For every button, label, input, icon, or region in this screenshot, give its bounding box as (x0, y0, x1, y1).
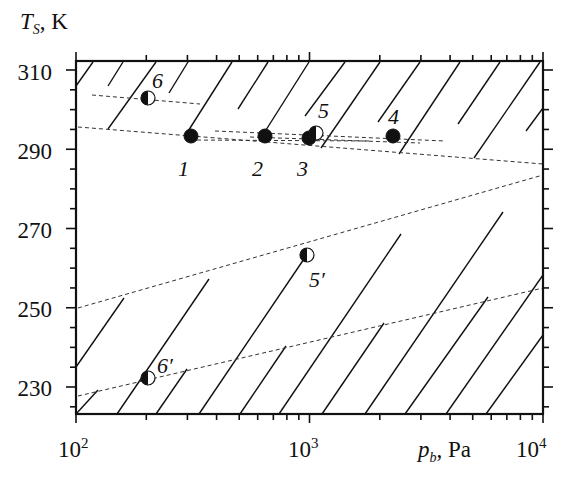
data-point-2 (258, 129, 272, 143)
x-axis-title: pb, Pa (416, 437, 471, 465)
y-tick-250: 250 (18, 297, 53, 322)
x-tick-labels: 102 103 104 (58, 435, 547, 462)
point-label: 2 (252, 156, 263, 181)
hatch-line (76, 298, 124, 367)
y-tick-230: 230 (18, 376, 53, 401)
hatch-line (399, 62, 460, 154)
data-point-6 (141, 91, 155, 105)
point-label: 4 (388, 104, 399, 129)
y-tick-270: 270 (18, 218, 53, 243)
x-tick-10000: 104 (516, 435, 547, 462)
plot-frame (76, 61, 543, 414)
data-point-6′ (141, 371, 155, 385)
axis-ticks (66, 52, 553, 423)
hatch-line (185, 62, 232, 136)
point-label: 5 (318, 98, 329, 123)
y-axis-title: TS, K (20, 9, 68, 37)
hatch-line (321, 62, 380, 148)
data-point-1 (184, 129, 198, 143)
point-label: 5′ (309, 267, 326, 292)
point-label: 6 (152, 68, 163, 93)
point-label: 1 (178, 156, 189, 181)
x-tick-1000: 103 (288, 435, 319, 462)
point-label: 3 (296, 156, 308, 181)
y-tick-310: 310 (18, 60, 53, 85)
data-point-5′ (300, 248, 314, 262)
x-tick-100: 102 (58, 435, 89, 462)
hatch-line (474, 62, 540, 158)
hatch-line (458, 62, 500, 124)
hatch-lines (76, 62, 543, 414)
hatch-line (76, 62, 93, 86)
data-point-4 (386, 129, 400, 143)
hatch-line (108, 62, 123, 86)
hatch-line (405, 297, 488, 414)
hatch-line (378, 62, 420, 122)
chart: 1235465′6′ 310 290 270 250 230 102 103 1… (0, 0, 567, 479)
y-tick-290: 290 (18, 139, 53, 164)
hatch-line (486, 335, 543, 414)
data-point-5 (309, 126, 323, 140)
hatch-line (526, 108, 543, 131)
hatch-line (238, 62, 268, 109)
point-label: 6′ (157, 353, 174, 378)
y-tick-labels: 310 290 270 250 230 (18, 60, 53, 401)
hatch-line (446, 275, 543, 414)
hatch-line (240, 346, 286, 414)
hatch-line (169, 62, 188, 93)
hatch-line (199, 256, 306, 414)
hatch-line (117, 279, 209, 414)
